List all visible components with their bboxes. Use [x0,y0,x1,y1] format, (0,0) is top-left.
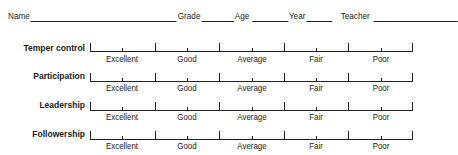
minor-tick [187,136,188,140]
rating-scale[interactable] [90,72,413,82]
minor-tick [381,136,382,140]
grade-label: Grade [178,10,201,22]
minor-tick [187,78,188,82]
major-tick [412,73,413,82]
major-tick [219,131,220,140]
student-info-header: Name Grade Age Year Teacher [8,10,458,22]
year-label: Year [289,10,306,22]
option-excellent[interactable]: Excellent [94,141,150,151]
major-tick [90,131,91,140]
major-tick [412,43,413,52]
minor-tick [187,48,188,52]
major-tick [348,43,349,52]
major-tick [412,102,413,111]
option-poor[interactable]: Poor [353,141,409,151]
minor-tick [381,48,382,52]
row-label: Participation [9,70,86,81]
option-poor[interactable]: Poor [353,54,409,64]
major-tick [348,73,349,82]
minor-tick [316,136,317,140]
option-good[interactable]: Good [159,54,215,64]
major-tick [348,102,349,111]
option-fair[interactable]: Fair [288,54,344,64]
grade-field[interactable] [201,11,234,22]
major-tick [90,43,91,52]
minor-tick [252,107,253,111]
minor-tick [122,107,123,111]
major-tick [219,43,220,52]
minor-tick [252,78,253,82]
minor-tick [122,136,123,140]
option-poor[interactable]: Poor [353,83,409,93]
option-poor[interactable]: Poor [353,112,409,122]
major-tick [155,131,156,140]
major-tick [284,73,285,82]
major-tick [155,43,156,52]
age-field[interactable] [252,11,288,22]
row-label: Temper control [9,42,86,53]
option-fair[interactable]: Fair [288,83,344,93]
minor-tick [316,78,317,82]
option-good[interactable]: Good [159,83,215,93]
age-label: Age [235,10,250,22]
option-good[interactable]: Good [159,112,215,122]
option-fair[interactable]: Fair [288,112,344,122]
major-tick [412,131,413,140]
name-label: Name [8,10,30,22]
option-average[interactable]: Average [224,141,280,151]
minor-tick [252,48,253,52]
major-tick [155,73,156,82]
year-field[interactable] [306,11,332,22]
teacher-field[interactable] [373,11,457,22]
rating-scale[interactable] [90,101,413,111]
major-tick [90,102,91,111]
major-tick [284,131,285,140]
name-field[interactable] [31,11,177,22]
major-tick [219,73,220,82]
option-fair[interactable]: Fair [288,141,344,151]
rating-scale[interactable] [90,130,413,140]
option-excellent[interactable]: Excellent [94,54,150,64]
major-tick [348,131,349,140]
minor-tick [381,107,382,111]
minor-tick [187,107,188,111]
minor-tick [381,78,382,82]
row-label: Followership [9,128,86,139]
minor-tick [252,136,253,140]
minor-tick [316,107,317,111]
major-tick [284,102,285,111]
option-good[interactable]: Good [159,141,215,151]
major-tick [219,102,220,111]
option-excellent[interactable]: Excellent [94,112,150,122]
rating-scale[interactable] [90,42,413,52]
option-excellent[interactable]: Excellent [94,83,150,93]
minor-tick [122,78,123,82]
minor-tick [122,48,123,52]
teacher-label: Teacher [341,10,370,22]
minor-tick [316,48,317,52]
option-average[interactable]: Average [224,54,280,64]
option-average[interactable]: Average [224,112,280,122]
option-average[interactable]: Average [224,83,280,93]
major-tick [90,73,91,82]
major-tick [155,102,156,111]
major-tick [284,43,285,52]
row-label: Leadership [9,99,86,110]
